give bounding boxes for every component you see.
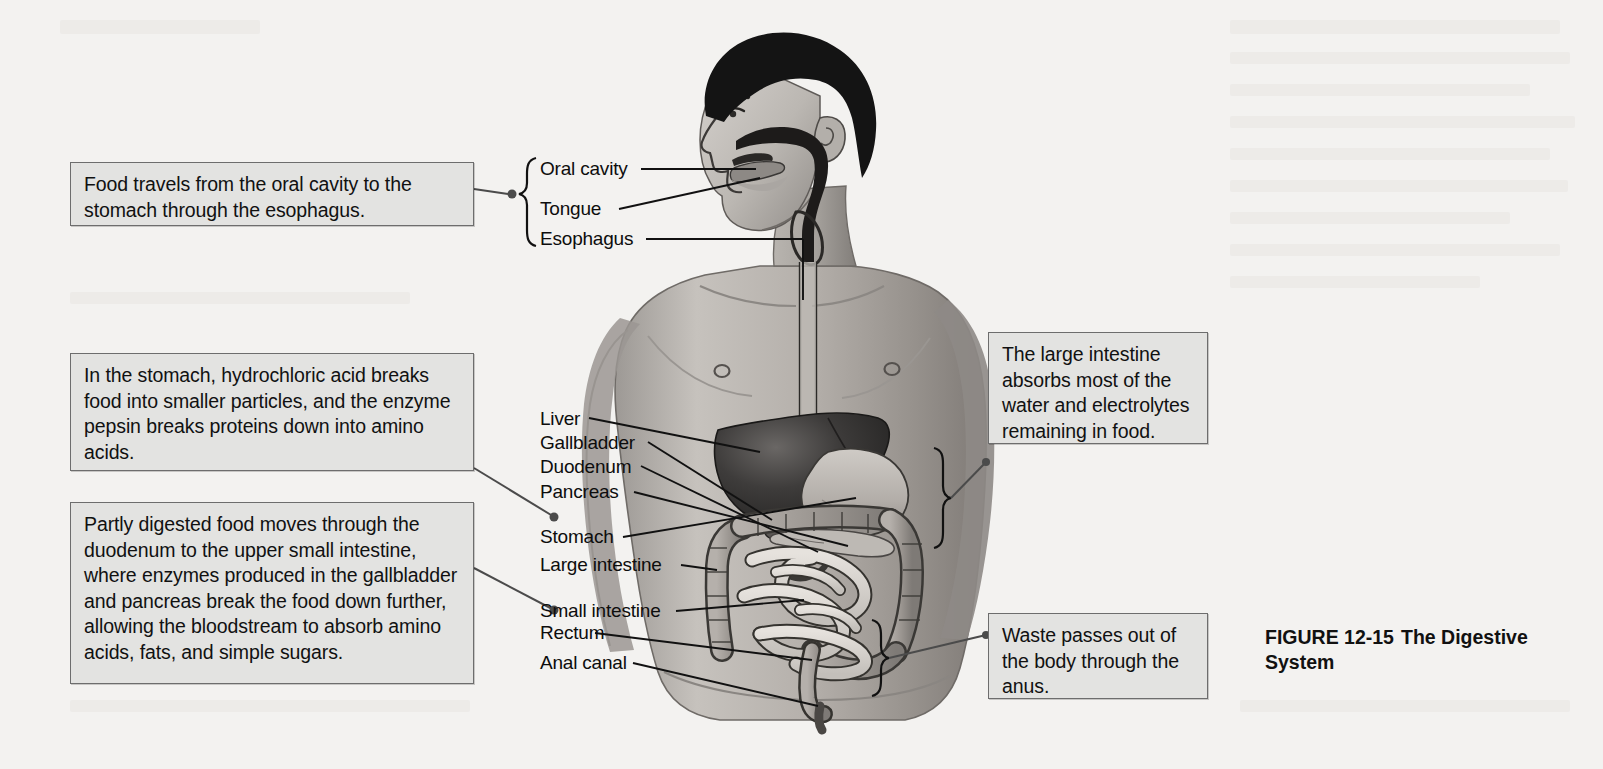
label-liver: Liver bbox=[540, 409, 580, 429]
anal-canal-organ bbox=[819, 706, 822, 730]
label-anal-canal-text: Anal canal bbox=[540, 652, 627, 673]
duodenum-callout-text: Partly digested food moves through the d… bbox=[84, 512, 460, 665]
upper-label-brace bbox=[519, 158, 536, 246]
label-anal-canal: Anal canal bbox=[540, 653, 627, 673]
label-pancreas: Pancreas bbox=[540, 482, 619, 502]
label-duodenum-text: Duodenum bbox=[540, 456, 631, 477]
label-pancreas-text: Pancreas bbox=[540, 481, 619, 502]
label-gallbladder-text: Gallbladder bbox=[540, 432, 635, 453]
label-oral-cavity: Oral cavity bbox=[540, 159, 628, 179]
leader-dot bbox=[550, 513, 559, 522]
label-oral-cavity-text: Oral cavity bbox=[540, 158, 628, 179]
anus-callout-text: Waste passes out of the body through the… bbox=[1002, 623, 1194, 700]
label-rectum-text: Rectum bbox=[540, 622, 604, 643]
label-small-intestine: Small intestine bbox=[540, 601, 661, 621]
label-tongue: Tongue bbox=[540, 199, 601, 219]
esophagus-callout: Food travels from the oral cavity to the… bbox=[70, 162, 474, 226]
label-large-intestine-text: Large intestine bbox=[540, 554, 662, 575]
large-intestine-callout: The large intestine absorbs most of the … bbox=[988, 332, 1208, 444]
anus-callout: Waste passes out of the body through the… bbox=[988, 613, 1208, 699]
figure-caption: FIGURE 12-15The Digestive System bbox=[1265, 625, 1595, 675]
stomach-callout-text: In the stomach, hydrochloric acid breaks… bbox=[84, 363, 460, 465]
label-stomach: Stomach bbox=[540, 527, 614, 547]
label-large-intestine: Large intestine bbox=[540, 555, 662, 575]
figure-page: Food travels from the oral cavity to the… bbox=[0, 0, 1603, 769]
label-liver-text: Liver bbox=[540, 408, 580, 429]
leader-dot bbox=[508, 190, 517, 199]
label-duodenum: Duodenum bbox=[540, 457, 631, 477]
duodenum-callout: Partly digested food moves through the d… bbox=[70, 502, 474, 684]
label-tongue-text: Tongue bbox=[540, 198, 601, 219]
large-intestine-callout-text: The large intestine absorbs most of the … bbox=[1002, 342, 1194, 444]
label-small-intestine-text: Small intestine bbox=[540, 600, 661, 621]
label-gallbladder: Gallbladder bbox=[540, 433, 635, 453]
label-stomach-text: Stomach bbox=[540, 526, 614, 547]
label-rectum: Rectum bbox=[540, 623, 604, 643]
esophagus-callout-text: Food travels from the oral cavity to the… bbox=[84, 172, 460, 223]
label-esophagus: Esophagus bbox=[540, 229, 633, 249]
figure-number: FIGURE 12-15 bbox=[1265, 626, 1394, 648]
stomach-callout: In the stomach, hydrochloric acid breaks… bbox=[70, 353, 474, 471]
leader-dot bbox=[982, 458, 990, 466]
label-esophagus-text: Esophagus bbox=[540, 228, 633, 249]
